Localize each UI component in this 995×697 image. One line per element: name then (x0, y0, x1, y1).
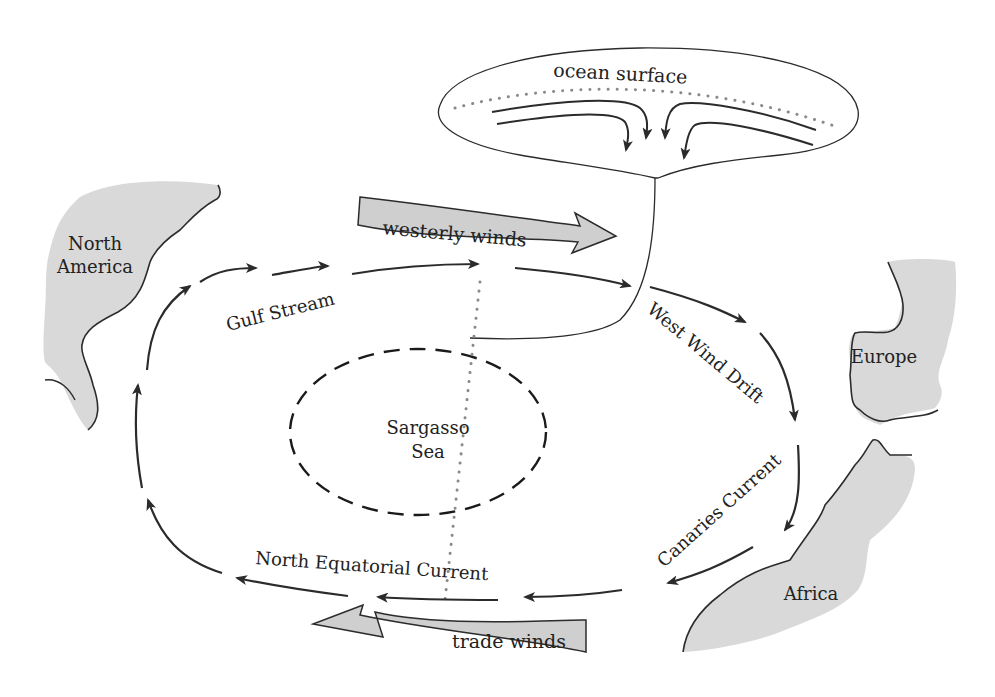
north-america-landmass (43, 181, 220, 430)
canaries-current-label: Canaries Current (653, 449, 786, 571)
trade-winds-label: trade winds (452, 630, 566, 652)
ocean-surface-inset: ocean surface (438, 48, 858, 339)
sargasso-label-1: Sargasso (386, 417, 469, 438)
gyre-diagram: ocean surface westerly winds trade winds… (0, 0, 995, 697)
trade-winds-arrow: trade winds (313, 605, 586, 652)
sargasso-sea: Sargasso Sea (290, 349, 546, 515)
africa-label: Africa (783, 583, 839, 604)
north-america-label-2: America (56, 256, 133, 277)
sargasso-label-2: Sea (411, 441, 445, 462)
west-wind-drift-label: West Wind Drift (643, 298, 768, 408)
cross-section-dotted-line (445, 282, 480, 600)
north-equatorial-current-label: North Equatorial Current (255, 547, 490, 584)
westerly-winds-arrow: westerly winds (358, 197, 616, 253)
ocean-surface-label: ocean surface (553, 59, 688, 88)
gulf-stream-label: Gulf Stream (224, 288, 337, 335)
north-america-label-1: North (68, 233, 122, 254)
current-labels: Gulf Stream West Wind Drift Canaries Cur… (224, 288, 785, 585)
europe-landmass (849, 259, 956, 425)
europe-label: Europe (851, 346, 917, 367)
